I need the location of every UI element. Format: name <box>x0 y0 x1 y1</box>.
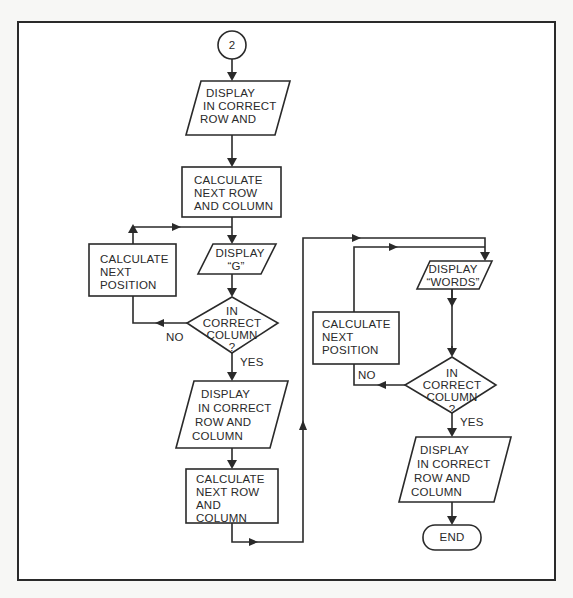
node-text: CORRECT <box>203 317 261 329</box>
node-text: NEXT ROW <box>196 486 259 498</box>
node-text: IN CORRECT <box>203 100 277 112</box>
node-text: IN CORRECT <box>417 458 491 470</box>
display-words: DISPLAY “WORDS” <box>417 261 492 289</box>
node-text: COLUMN <box>206 329 257 341</box>
calculate-next-position-left: CALCULATE NEXT POSITION <box>89 244 176 296</box>
node-text: “WORDS” <box>426 276 479 288</box>
node-text: POSITION <box>100 279 157 291</box>
node-text: DISPLAY <box>206 87 255 99</box>
node-text: ? <box>229 341 236 353</box>
node-text: IN <box>226 305 238 317</box>
display-in-correct-row-column-1: DISPLAY IN CORRECT ROW AND COLUMN <box>186 81 290 135</box>
node-text: DISPLAY <box>215 247 264 259</box>
node-text: CORRECT <box>423 379 481 391</box>
node-text: ROW AND <box>200 113 256 125</box>
node-text: COLUMN <box>426 391 477 403</box>
node-text: COLUMN <box>192 430 243 442</box>
end-label: END <box>440 531 465 543</box>
display-in-correct-row-column-2: DISPLAY IN CORRECT ROW AND COLUMN <box>176 381 288 448</box>
calculate-next-position-right: CALCULATE NEXT POSITION <box>313 312 399 364</box>
connector-2: 2 <box>218 31 246 59</box>
display-in-correct-row-column-3: DISPLAY IN CORRECT ROW AND COLUMN <box>399 437 511 502</box>
no-label: NO <box>358 369 376 381</box>
node-text: DISPLAY <box>428 263 477 275</box>
node-text: POSITION <box>322 344 379 356</box>
calculate-next-row-column-2: CALCULATE NEXT ROW AND COLUMN <box>186 469 278 524</box>
node-text: DISPLAY <box>201 388 250 400</box>
connector-label: 2 <box>229 39 236 51</box>
node-text: AND COLUMN <box>194 200 273 212</box>
node-text: CALCULATE <box>196 473 265 485</box>
yes-label: YES <box>460 416 484 428</box>
node-text: IN CORRECT <box>198 402 272 414</box>
node-text: ROW AND <box>195 416 251 428</box>
calculate-next-row-column-1: CALCULATE NEXT ROW AND COLUMN <box>182 167 281 217</box>
node-text: CALCULATE <box>322 318 391 330</box>
node-text: COLUMN <box>411 486 462 498</box>
node-text: ROW AND <box>414 472 470 484</box>
node-text: CALCULATE <box>194 174 263 186</box>
no-label: NO <box>166 331 184 343</box>
flowchart: 2 DISPLAY IN CORRECT ROW AND COLUMN CALC… <box>0 0 573 598</box>
node-text: CALCULATE <box>100 253 169 265</box>
node-text: IN <box>446 367 458 379</box>
node-text: DISPLAY <box>420 444 469 456</box>
yes-label: YES <box>240 356 264 368</box>
node-text: “G” <box>227 260 244 272</box>
end-terminator: END <box>423 525 481 550</box>
node-text: NEXT <box>322 331 353 343</box>
node-text: AND <box>196 499 221 511</box>
node-text: COLUMN <box>196 512 247 524</box>
node-text: NEXT <box>100 266 131 278</box>
node-text: NEXT ROW <box>194 187 257 199</box>
